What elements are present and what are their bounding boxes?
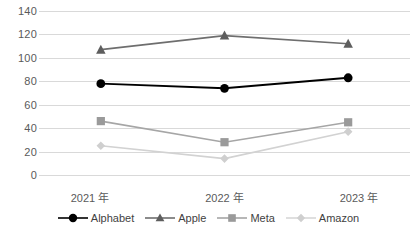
series-layer	[39, 11, 410, 175]
data-point-meta-2	[344, 118, 352, 126]
ytick-label-140: 140	[5, 6, 37, 17]
plot-area: 140 120 100 80 60 40 20 0 2021 年 2022 年 …	[39, 11, 410, 175]
legend-marker-triangle-icon	[145, 212, 175, 224]
data-point-amazon-1	[220, 154, 229, 163]
legend-marker-circle-icon	[58, 212, 88, 224]
chart-legend: Alphabet Apple Meta Amazon	[0, 212, 417, 224]
gridline-0	[39, 175, 410, 176]
ytick-label-60: 60	[5, 100, 37, 111]
legend-item-apple[interactable]: Apple	[145, 212, 206, 224]
data-point-meta-0	[97, 117, 105, 125]
legend-item-amazon[interactable]: Amazon	[286, 212, 359, 224]
xtick-label-2021: 2021 年	[45, 192, 135, 204]
legend-label-alphabet: Alphabet	[90, 212, 134, 224]
data-point-meta-1	[220, 138, 228, 146]
line-chart: 140 120 100 80 60 40 20 0 2021 年 2022 年 …	[0, 0, 417, 239]
ytick-label-0: 0	[5, 170, 37, 181]
data-point-amazon-0	[97, 141, 106, 150]
ytick-label-40: 40	[5, 123, 37, 134]
legend-label-apple: Apple	[177, 212, 206, 224]
ytick-label-20: 20	[5, 147, 37, 158]
xtick-label-2023: 2023 年	[314, 192, 404, 204]
xtick-label-2022: 2022 年	[180, 192, 270, 204]
legend-item-alphabet[interactable]: Alphabet	[58, 212, 134, 224]
legend-marker-square-icon	[217, 212, 247, 224]
data-point-alphabet-1	[220, 84, 229, 93]
legend-item-meta[interactable]: Meta	[217, 212, 274, 224]
ytick-label-120: 120	[5, 29, 37, 40]
data-point-alphabet-0	[96, 79, 105, 88]
data-point-amazon-2	[344, 127, 353, 136]
ytick-label-100: 100	[5, 53, 37, 64]
legend-label-meta: Meta	[249, 212, 274, 224]
ytick-label-80: 80	[5, 76, 37, 87]
legend-label-amazon: Amazon	[318, 212, 359, 224]
data-point-alphabet-2	[344, 73, 353, 82]
legend-marker-diamond-icon	[286, 212, 316, 224]
